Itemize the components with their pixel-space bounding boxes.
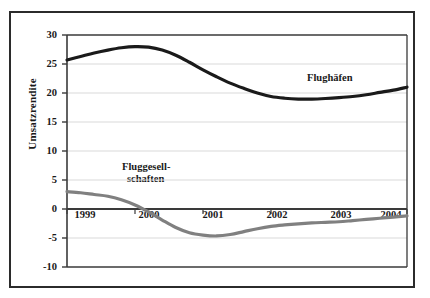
plot-area [11,13,413,286]
gridlines [67,64,407,238]
chart-figure: Umsatzrendite 30 25 20 15 10 5 0 -5 -10 … [0,0,430,298]
data-series [67,47,407,236]
series-line-flughaefen [67,47,407,100]
chart-outer-frame: Umsatzrendite 30 25 20 15 10 5 0 -5 -10 … [9,11,415,288]
series-line-fluggesellschaften [67,192,407,236]
